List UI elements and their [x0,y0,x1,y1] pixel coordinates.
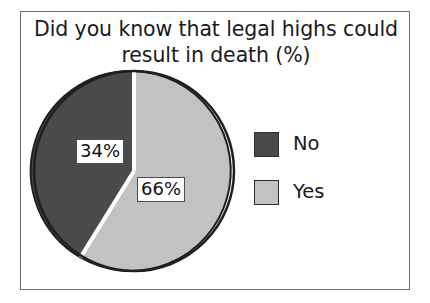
pie-svg [34,69,234,273]
legend-item-yes[interactable]: Yes [254,168,384,216]
legend-label-no: No [293,134,320,154]
pie-chart: 34% 66% [34,69,234,273]
legend-item-no[interactable]: No [254,120,384,168]
legend-swatch-no [254,132,279,157]
legend-label-yes: Yes [293,182,324,202]
chart-frame: Did you know that legal highs could resu… [20,11,410,290]
pie-label-yes: 66% [137,177,185,202]
chart-title: Did you know that legal highs could resu… [29,16,403,68]
pie-label-no: 34% [76,139,124,164]
legend-swatch-yes [254,180,279,205]
chart-legend: No Yes [254,120,384,216]
